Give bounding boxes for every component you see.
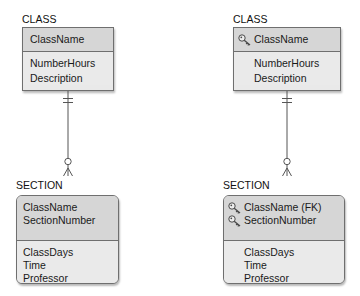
right-relationship-line — [282, 91, 292, 176]
relationship-connectors — [0, 0, 360, 296]
left-relationship-line — [63, 91, 73, 176]
